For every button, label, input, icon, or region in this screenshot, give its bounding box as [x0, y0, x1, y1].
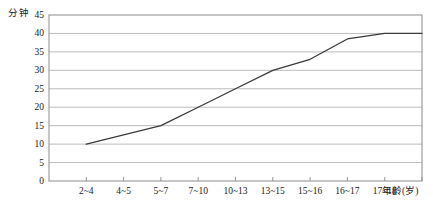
- gridlines: [49, 33, 422, 162]
- line-chart: 分钟 年龄(岁) 051015202530354045 2~44~55~77~1…: [0, 0, 433, 216]
- plot-frame: [49, 15, 422, 181]
- plot-area: [0, 0, 433, 216]
- x-axis-tick-marks: [86, 177, 422, 181]
